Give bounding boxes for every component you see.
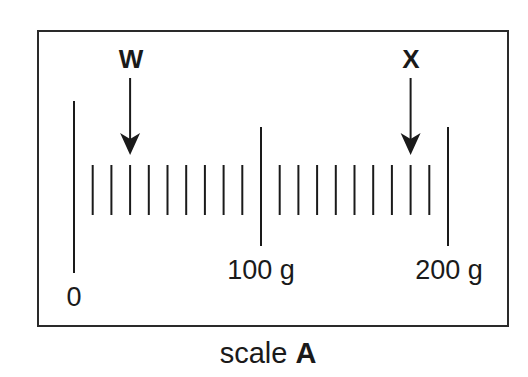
label-200g: 200 g <box>415 257 483 284</box>
marker-label-x: X <box>402 46 419 72</box>
scale-caption: scale A <box>220 339 317 368</box>
caption-text: scale <box>220 337 288 369</box>
label-zero: 0 <box>66 284 81 311</box>
label-100g: 100 g <box>227 257 295 284</box>
marker-label-w: W <box>119 46 144 72</box>
caption-letter: A <box>295 337 316 369</box>
